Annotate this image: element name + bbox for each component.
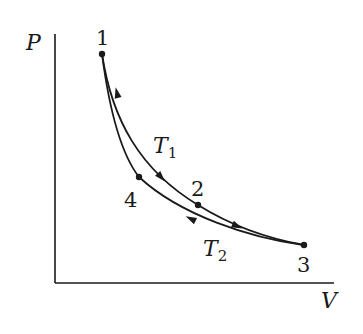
curve-3-to-1-inner — [102, 54, 304, 245]
arrow-icon-3-to-4 — [184, 213, 197, 224]
point-4 — [136, 174, 142, 180]
arrow-icon-4-to-1 — [112, 86, 121, 98]
point-3 — [301, 242, 307, 248]
point-label-3: 3 — [297, 253, 310, 277]
t2-sub: 2 — [218, 247, 228, 265]
isotherm-label-t1: T1 — [153, 133, 177, 162]
isotherm-label-t2: T2 — [203, 236, 227, 265]
point-label-2: 2 — [191, 177, 204, 201]
t1-sub: 1 — [168, 144, 178, 162]
point-label-1: 1 — [96, 26, 109, 50]
point-2 — [195, 202, 201, 208]
y-axis-label: P — [25, 30, 42, 55]
point-label-4: 4 — [124, 188, 137, 212]
point-1 — [99, 51, 105, 57]
x-axis-label: V — [321, 288, 339, 313]
pv-diagram: P V 1 2 3 4 T1 T2 — [0, 0, 363, 334]
